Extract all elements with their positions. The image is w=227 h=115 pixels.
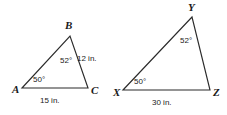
vertex-label-z: Z (212, 86, 220, 98)
angle-label-b: 52° (60, 56, 72, 65)
side-label-bc: 12 in. (77, 54, 97, 63)
side-label-xz: 30 in. (152, 98, 172, 107)
geometry-figure-canvas: A B C 50° 52° 12 in. 15 in. X Y Z 50° 52… (0, 0, 227, 115)
vertex-label-y: Y (188, 1, 196, 13)
similar-triangles-svg: A B C 50° 52° 12 in. 15 in. X Y Z 50° 52… (0, 0, 227, 115)
triangle-xyz-group: X Y Z 50° 52° 30 in. (112, 1, 220, 107)
vertex-label-x: X (112, 86, 121, 98)
side-label-ac: 15 in. (40, 96, 60, 105)
vertex-label-c: C (91, 84, 99, 96)
angle-label-a: 50° (33, 75, 45, 84)
vertex-label-b: B (64, 19, 72, 31)
triangle-abc-group: A B C 50° 52° 12 in. 15 in. (11, 19, 99, 105)
angle-label-x: 50° (134, 77, 146, 86)
vertex-label-a: A (11, 83, 19, 95)
angle-label-y: 52° (180, 36, 192, 45)
